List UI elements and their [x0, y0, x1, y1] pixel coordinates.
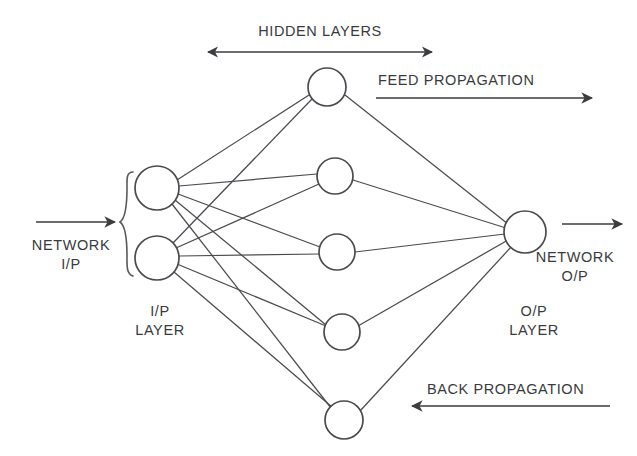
edge-i1-h2 [179, 174, 317, 186]
network-input-label: NETWORK I/P [17, 236, 125, 273]
node-input-1 [135, 166, 179, 210]
node-output-1 [504, 211, 546, 253]
edge-i2-h1 [173, 99, 312, 243]
edge-i2-h3 [179, 254, 319, 256]
back-propagation-label: BACK PROPAGATION [427, 380, 584, 399]
edges-input-to-hidden [172, 95, 332, 408]
node-hidden-1 [308, 68, 346, 106]
input-layer-label: I/P LAYER [112, 302, 208, 339]
edges-hidden-to-output [345, 95, 512, 411]
node-hidden-2 [317, 158, 353, 194]
neural-network-diagram: HIDDEN LAYERS FEED PROPAGATION BACK PROP… [0, 0, 637, 456]
feed-propagation-label: FEED PROPAGATION [378, 71, 535, 90]
network-output-label: NETWORK O/P [521, 248, 629, 285]
output-layer-nodes [504, 211, 546, 253]
edge-h3-o1 [355, 234, 505, 252]
edge-i1-h1 [177, 95, 309, 180]
hidden-layers-label: HIDDEN LAYERS [204, 22, 436, 41]
node-hidden-5 [325, 401, 363, 439]
node-hidden-4 [324, 314, 360, 350]
edge-i2-h5 [174, 272, 332, 407]
input-layer-nodes [135, 166, 179, 280]
node-input-2 [135, 236, 179, 280]
output-layer-label: O/P LAYER [486, 302, 582, 339]
edge-h1-o1 [345, 95, 508, 224]
node-hidden-3 [319, 234, 355, 270]
